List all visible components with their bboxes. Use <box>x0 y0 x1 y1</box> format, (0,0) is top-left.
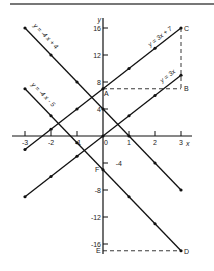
label-line4: y = 3x <box>158 67 178 85</box>
x-tick-label: -3 <box>22 139 28 146</box>
line-chart: -3 -2 -1 0 1 2 3 x 16 12 8 4 -4 -8 -12 -… <box>0 0 214 271</box>
dashed-guides <box>103 28 181 251</box>
point-label-A: A <box>104 90 109 97</box>
label-line1: y = -4 x + 4 <box>31 21 60 51</box>
y-tick-labels: 16 12 8 4 -4 -8 -12 -16 y <box>91 16 122 248</box>
y-tick-label: 12 <box>93 52 101 59</box>
y-tick-label: -8 <box>95 187 101 194</box>
y-tick-label: 16 <box>93 25 101 32</box>
x-axis-label: x <box>185 140 190 147</box>
x-tick-label: 1 <box>127 139 131 146</box>
x-tick-label: -2 <box>48 139 54 146</box>
y-axis-label: y <box>97 16 102 24</box>
point-label-E: E <box>96 247 101 254</box>
x-tick-labels: -3 -2 -1 0 1 2 3 x <box>22 139 190 147</box>
x-tick-label: 2 <box>153 139 157 146</box>
y-tick-label: -4 <box>116 160 122 167</box>
label-line2: y = -4 x - 5 <box>29 80 57 109</box>
origin-label: 0 <box>104 139 108 146</box>
point-labels: A B C D E F <box>95 25 189 255</box>
point-label-D: D <box>184 248 189 255</box>
point-label-F: F <box>95 166 99 173</box>
point-label-B: B <box>184 85 189 92</box>
x-tick-label: 3 <box>179 139 183 146</box>
y-tick-label: -12 <box>91 214 101 221</box>
y-tick-label: 8 <box>97 79 101 86</box>
point-label-C: C <box>184 25 189 32</box>
